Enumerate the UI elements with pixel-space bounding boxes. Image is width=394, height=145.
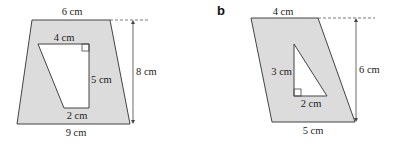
label-bottom: 9 cm <box>66 127 87 138</box>
figure-b: b 4 cm 5 cm 6 cm 3 cm 2 cm <box>217 3 380 136</box>
label-bottom: 5 cm <box>303 125 324 136</box>
label-height: 8 cm <box>136 66 157 77</box>
label-inner-bottom: 2 cm <box>301 98 322 109</box>
label-inner-right: 5 cm <box>91 74 112 85</box>
label-inner-left: 3 cm <box>271 66 292 77</box>
label-inner-bottom: 2 cm <box>67 110 88 121</box>
label-top: 6 cm <box>62 6 83 17</box>
diagram-canvas: 6 cm 9 cm 8 cm 4 cm 5 cm 2 cm b 4 cm 5 c… <box>0 0 394 145</box>
label-height: 6 cm <box>359 64 380 75</box>
label-inner-top: 4 cm <box>54 32 75 43</box>
figure-a: 6 cm 9 cm 8 cm 4 cm 5 cm 2 cm <box>17 6 157 138</box>
part-label: b <box>217 3 225 18</box>
label-top: 4 cm <box>273 6 294 17</box>
